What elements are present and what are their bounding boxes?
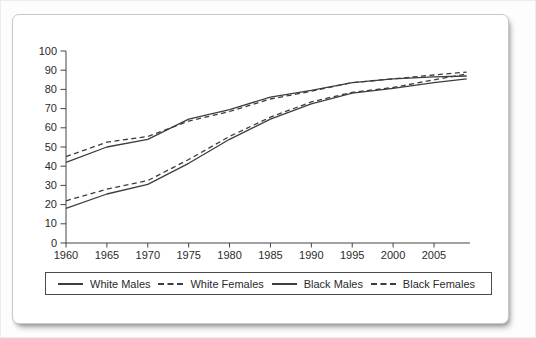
page-frame: 0102030405060708090100196019651970197519… [0,0,536,338]
legend-label-white-females: White Females [190,278,263,290]
legend-item-black-females: Black Females [371,278,475,290]
legend-label-black-females: Black Females [403,278,475,290]
legend-item-black-males: Black Males [272,278,363,290]
solid-line-swatch [58,283,83,285]
dashed-line-swatch [158,283,183,285]
solid-line-swatch [272,283,297,285]
legend-item-white-females: White Females [158,278,263,290]
legend-label-black-males: Black Males [304,278,363,290]
dashed-line-swatch [371,283,396,285]
legend: White Males White Females Black Males Bl… [45,272,492,295]
legend-label-white-males: White Males [90,278,151,290]
legend-item-white-males: White Males [58,278,151,290]
